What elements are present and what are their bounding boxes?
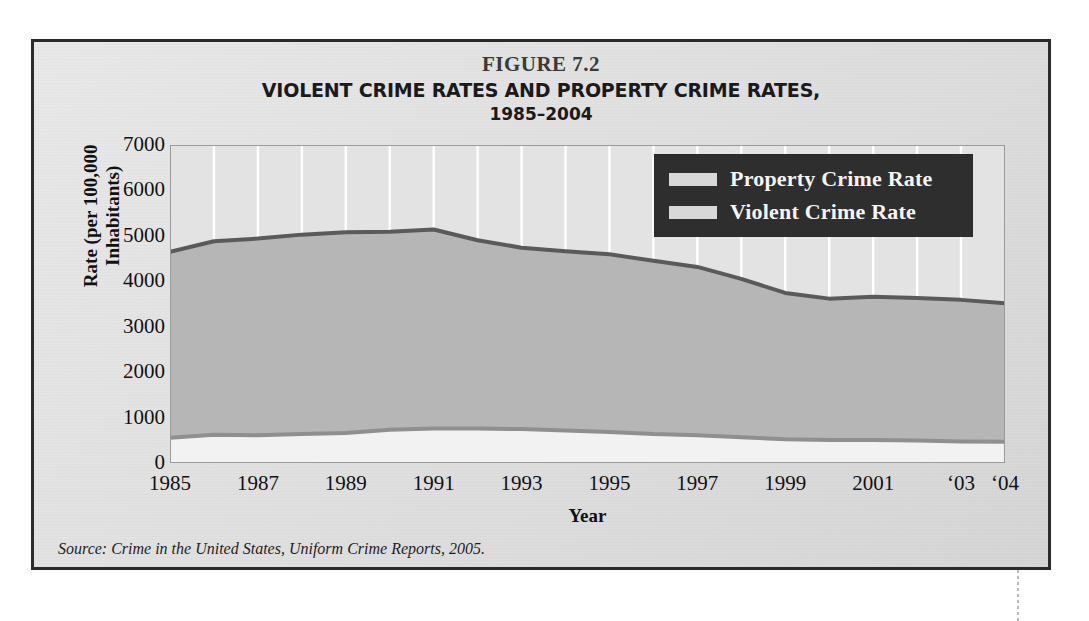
y-tick-6000: 6000 <box>95 179 165 200</box>
x-tick-1987: 1987 <box>237 471 279 496</box>
figure-frame: FIGURE 7.2 VIOLENT CRIME RATES AND PROPE… <box>31 39 1051 570</box>
x-tick-1989: 1989 <box>325 471 367 496</box>
legend-label-violent: Violent Crime Rate <box>730 199 916 225</box>
legend-label-property: Property Crime Rate <box>730 166 933 192</box>
y-tick-4000: 4000 <box>95 270 165 291</box>
x-tick-1995: 1995 <box>588 471 630 496</box>
legend-item-violent[interactable]: Violent Crime Rate <box>669 196 972 229</box>
figure-number: FIGURE 7.2 <box>34 52 1048 77</box>
figure-title: VIOLENT CRIME RATES AND PROPERTY CRIME R… <box>34 78 1048 103</box>
y-tick-0: 0 <box>95 452 165 473</box>
legend-swatch-property <box>669 173 717 186</box>
x-tick-1991: 1991 <box>413 471 455 496</box>
x-tick-1999: 1999 <box>764 471 806 496</box>
y-tick-1000: 1000 <box>95 407 165 428</box>
x-tick-2001: 2001 <box>852 471 894 496</box>
legend-swatch-violent <box>669 206 717 219</box>
x-tick-2004: ‘04 <box>991 471 1019 496</box>
x-tick-1993: 1993 <box>501 471 543 496</box>
y-tick-7000: 7000 <box>95 134 165 155</box>
y-tick-2000: 2000 <box>95 361 165 382</box>
y-tick-3000: 3000 <box>95 316 165 337</box>
legend-item-property[interactable]: Property Crime Rate <box>669 163 972 196</box>
figure-subtitle: 1985–2004 <box>34 104 1048 124</box>
x-tick-1997: 1997 <box>676 471 718 496</box>
x-axis-tick-labels: 198519871989199119931995199719992001‘03‘… <box>170 471 1030 501</box>
page-edge-artifact <box>1017 570 1019 621</box>
x-axis-title: Year <box>170 505 1005 527</box>
chart-legend: Property Crime Rate Violent Crime Rate <box>655 155 972 236</box>
source-note: Source: Crime in the United States, Unif… <box>58 540 485 558</box>
y-axis-tick-labels: 70006000500040003000200010000 <box>89 145 165 463</box>
x-tick-2003: ‘03 <box>947 471 975 496</box>
y-tick-5000: 5000 <box>95 225 165 246</box>
x-tick-1985: 1985 <box>149 471 191 496</box>
